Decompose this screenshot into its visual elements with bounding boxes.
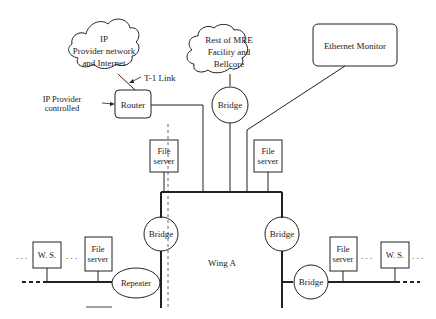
network-diagram: IP Provider network and Internet Rest of… bbox=[0, 0, 436, 319]
svg-text:. . .: . . . bbox=[361, 251, 372, 261]
svg-text:. . .: . . . bbox=[16, 251, 27, 261]
mre-facility-line2: Facility and bbox=[208, 47, 251, 57]
bridge-right: Bridge bbox=[265, 217, 299, 251]
svg-text:Bridge: Bridge bbox=[299, 277, 324, 287]
svg-text:server: server bbox=[154, 156, 175, 166]
ip-provider-controlled-line2: controlled bbox=[45, 103, 80, 113]
svg-text:Ethernet Monitor: Ethernet Monitor bbox=[324, 41, 386, 51]
file-server-right: File server bbox=[330, 237, 357, 271]
bridge-left: Bridge bbox=[144, 217, 178, 251]
svg-text:File: File bbox=[157, 146, 170, 156]
ip-provider-cloud: IP Provider network and Internet bbox=[69, 19, 139, 68]
ip-provider-line3: and Internet bbox=[82, 58, 126, 68]
svg-text:Bridge: Bridge bbox=[270, 229, 295, 239]
file-server-left: File server bbox=[85, 237, 112, 271]
mre-facility-cloud: Rest of MRE Facility and Bellcore bbox=[187, 24, 253, 72]
router-box: Router bbox=[115, 90, 151, 118]
svg-text:W. S.: W. S. bbox=[38, 250, 56, 260]
file-server-center-left: File server bbox=[150, 140, 178, 172]
svg-text:File: File bbox=[336, 244, 349, 254]
svg-text:server: server bbox=[88, 254, 109, 264]
svg-text:Bridge: Bridge bbox=[218, 100, 243, 110]
file-server-center-right: File server bbox=[254, 140, 282, 172]
svg-text:Router: Router bbox=[121, 100, 146, 110]
svg-text:File: File bbox=[261, 146, 274, 156]
ws-left: W. S. bbox=[33, 242, 61, 268]
ip-provider-line2: Provider network bbox=[73, 46, 136, 56]
svg-text:server: server bbox=[333, 254, 354, 264]
ws-right: W. S. bbox=[381, 242, 409, 268]
mre-facility-line3: Bellcore bbox=[214, 59, 245, 69]
svg-text:W. S.: W. S. bbox=[386, 250, 404, 260]
repeater: Repeater bbox=[112, 268, 160, 298]
svg-text:server: server bbox=[258, 156, 279, 166]
svg-text:. . .: . . . bbox=[412, 251, 423, 261]
t1-link-label: T-1 Link bbox=[144, 73, 176, 83]
ip-provider-line1: IP bbox=[100, 34, 108, 44]
bridge-top: Bridge bbox=[212, 87, 248, 123]
svg-text:Bridge: Bridge bbox=[149, 229, 174, 239]
mre-facility-line1: Rest of MRE bbox=[205, 35, 253, 45]
svg-text:. . .: . . . bbox=[66, 251, 77, 261]
svg-text:File: File bbox=[91, 244, 104, 254]
svg-text:Repeater: Repeater bbox=[121, 278, 151, 288]
bridge-lower-right: Bridge bbox=[294, 265, 328, 299]
wing-a-label: Wing A bbox=[208, 258, 236, 268]
ethernet-monitor-box: Ethernet Monitor bbox=[313, 24, 397, 66]
